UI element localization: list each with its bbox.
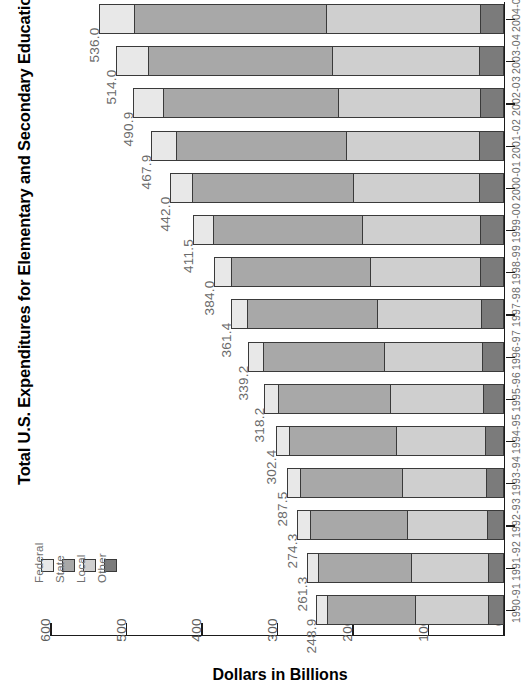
category-axis-tick <box>506 103 515 104</box>
bar-row[interactable]: 536.02004-05 <box>0 4 528 34</box>
bar-segment-other[interactable] <box>487 510 504 540</box>
bar-segment-state[interactable] <box>289 426 396 456</box>
bar-segment-other[interactable] <box>479 173 504 203</box>
bar-segment-federal[interactable] <box>99 4 134 34</box>
bar-segment-other[interactable] <box>483 384 504 414</box>
category-axis-tick <box>506 399 515 400</box>
bar-segment-state[interactable] <box>247 299 376 329</box>
bar-segment-state[interactable] <box>263 342 384 372</box>
bar-segment-state[interactable] <box>163 88 339 118</box>
chart-legend: FederalStateLocalOther <box>40 452 126 578</box>
bar-segment-local[interactable] <box>402 468 486 498</box>
value-axis-tick-label: 400 <box>188 618 206 664</box>
category-axis-tick <box>506 483 515 484</box>
category-axis-tick <box>506 230 515 231</box>
bar-segment-local[interactable] <box>384 342 482 372</box>
bar-segment-other[interactable] <box>481 299 504 329</box>
bar-segment-state[interactable] <box>327 595 415 625</box>
legend-item-other[interactable]: Other <box>103 452 125 572</box>
bar-segment-state[interactable] <box>148 46 332 76</box>
bar-row[interactable]: 384.01998-99 <box>0 257 528 287</box>
bar-segment-other[interactable] <box>486 468 504 498</box>
bar-segment-other[interactable] <box>480 4 504 34</box>
bar-segment-local[interactable] <box>407 510 487 540</box>
bar-row[interactable]: 361.41997-98 <box>0 299 528 329</box>
category-axis-tick <box>506 357 515 358</box>
category-axis-tick <box>506 610 515 611</box>
bar-segment-state[interactable] <box>176 131 345 161</box>
bar-row[interactable]: 339.21996-97 <box>0 342 528 372</box>
value-axis-tick-label: 200 <box>339 618 357 664</box>
bar-segment-local[interactable] <box>370 257 480 287</box>
bar-segment-other[interactable] <box>488 595 504 625</box>
chart-page: Total U.S. Expenditures for Elementary a… <box>0 0 528 693</box>
bar-segment-other[interactable] <box>482 342 504 372</box>
bar-segment-local[interactable] <box>338 88 479 118</box>
bar-row[interactable]: 442.02000-01 <box>0 173 528 203</box>
bar-segment-local[interactable] <box>377 299 481 329</box>
bar-segment-other[interactable] <box>480 215 504 245</box>
bar-row[interactable]: 467.92001-02 <box>0 131 528 161</box>
value-axis-tick-label: 300 <box>264 618 282 664</box>
category-axis-tick <box>506 441 515 442</box>
bar-segment-other[interactable] <box>480 257 504 287</box>
legend-label: Other <box>95 525 110 583</box>
bar-value-label: 248.9 <box>303 610 321 662</box>
value-axis-title: Dollars in Billions <box>120 664 440 688</box>
category-axis-tick <box>506 146 515 147</box>
bar-row[interactable]: 490.92002-03 <box>0 88 528 118</box>
bar-segment-state[interactable] <box>310 510 407 540</box>
bar-segment-state[interactable] <box>192 173 353 203</box>
category-axis-tick <box>506 188 515 189</box>
bar-segment-state[interactable] <box>318 553 411 583</box>
bar-segment-other[interactable] <box>480 88 504 118</box>
legend-label: Federal <box>32 525 47 583</box>
legend-label: Local <box>74 525 89 583</box>
value-axis-tick-label: 0 <box>490 618 508 664</box>
bar-segment-local[interactable] <box>353 173 479 203</box>
bar-row[interactable]: 248.91990-91 <box>0 595 528 625</box>
value-axis-tick-label: 500 <box>113 618 131 664</box>
category-axis-tick <box>506 314 515 315</box>
bar-segment-local[interactable] <box>411 553 487 583</box>
bar-segment-local[interactable] <box>346 131 479 161</box>
bar-segment-state[interactable] <box>134 4 326 34</box>
bar-row[interactable]: 411.51999-00 <box>0 215 528 245</box>
bar-segment-local[interactable] <box>415 595 487 625</box>
bar-segment-other[interactable] <box>479 46 504 76</box>
category-axis-tick <box>506 61 515 62</box>
bar-row[interactable]: 318.21995-96 <box>0 384 528 414</box>
bar-row[interactable]: 514.02003-04 <box>0 46 528 76</box>
bar-segment-local[interactable] <box>396 426 485 456</box>
bar-segment-other[interactable] <box>485 426 504 456</box>
bar-segment-state[interactable] <box>278 384 390 414</box>
bar-segment-state[interactable] <box>300 468 402 498</box>
legend-label: State <box>53 525 68 583</box>
bar-segment-local[interactable] <box>332 46 479 76</box>
bar-segment-local[interactable] <box>326 4 480 34</box>
bar-segment-local[interactable] <box>390 384 483 414</box>
bar-segment-state[interactable] <box>231 257 369 287</box>
category-axis-tick <box>506 19 515 20</box>
category-axis-tick <box>506 568 515 569</box>
bar-segment-local[interactable] <box>362 215 480 245</box>
value-axis-tick-label: 100 <box>415 618 433 664</box>
plot-area: 6005004003002001000 536.02004-05514.0200… <box>0 0 528 693</box>
bar-segment-other[interactable] <box>488 553 504 583</box>
value-axis-tick-label: 600 <box>37 618 55 664</box>
category-axis-tick <box>506 272 515 273</box>
category-label: 1990-91 <box>509 565 523 623</box>
category-axis-tick <box>506 525 515 526</box>
bar-segment-state[interactable] <box>213 215 362 245</box>
bar-segment-other[interactable] <box>479 131 504 161</box>
